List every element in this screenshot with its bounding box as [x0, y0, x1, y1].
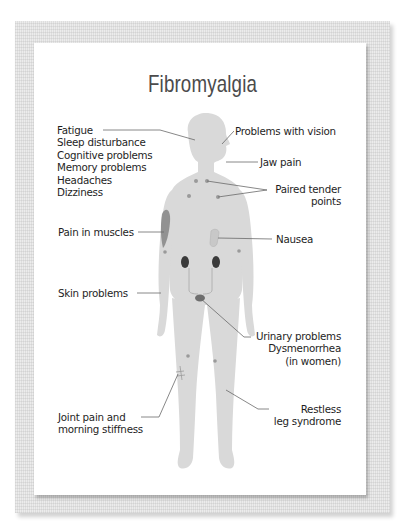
label-nausea: Nausea: [276, 233, 313, 245]
label-memory-problems: Memory problems: [57, 161, 152, 173]
label-text: Nausea: [276, 233, 313, 245]
human-body-figure: [0, 0, 405, 531]
label-line: Joint pain and: [58, 411, 143, 423]
label-text: Problems with vision: [235, 125, 336, 137]
label-line: morning stiffness: [58, 423, 143, 435]
label-paired-tender-points: Paired tender points: [275, 183, 341, 208]
label-sleep-disturbance: Sleep disturbance: [57, 136, 152, 148]
label-line: Urinary problems: [256, 330, 341, 342]
label-cognitive-problems: Cognitive problems: [57, 149, 152, 161]
label-urinary-problems: Urinary problems Dysmenorrhea (in women): [256, 330, 341, 367]
label-line: (in women): [256, 355, 341, 367]
label-jaw-pain: Jaw pain: [260, 156, 301, 168]
label-line: Dysmenorrhea: [256, 342, 341, 354]
label-dizziness: Dizziness: [57, 186, 152, 198]
label-restless-leg-syndrome: Restless leg syndrome: [274, 403, 341, 428]
label-fatigue: Fatigue: [57, 124, 152, 136]
label-problems-with-vision: Problems with vision: [235, 125, 336, 137]
label-text: Jaw pain: [260, 156, 301, 168]
label-line: points: [275, 195, 341, 207]
label-text: Skin problems: [58, 287, 128, 299]
body-silhouette: [157, 113, 255, 469]
label-line: Restless: [274, 403, 341, 415]
label-skin-problems: Skin problems: [58, 287, 128, 299]
label-joint-pain: Joint pain and morning stiffness: [58, 411, 143, 436]
label-line: leg syndrome: [274, 415, 341, 427]
label-pain-in-muscles: Pain in muscles: [58, 226, 134, 238]
label-headaches: Headaches: [57, 174, 152, 186]
label-line: Paired tender: [275, 183, 341, 195]
label-text: Pain in muscles: [58, 226, 134, 238]
left-kidney-icon: [181, 256, 189, 268]
right-kidney-icon: [212, 256, 220, 268]
label-head-symptoms: Fatigue Sleep disturbance Cognitive prob…: [57, 124, 152, 198]
